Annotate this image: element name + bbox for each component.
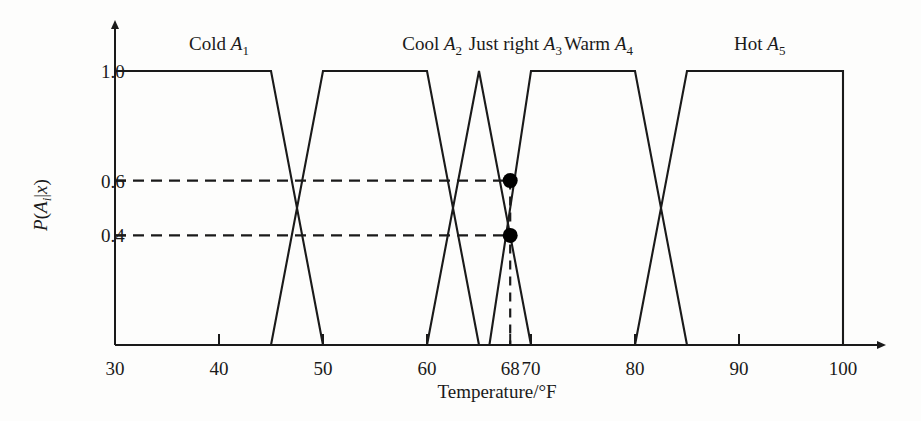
- series-symbol-subscript: 5: [779, 43, 786, 58]
- series-symbol-subscript: 1: [242, 43, 249, 58]
- x-tick-label: 68: [501, 359, 520, 378]
- membership-curve-cool: [271, 71, 479, 345]
- series-label-cold: Cold A1: [189, 34, 249, 57]
- series-label-text: Hot: [734, 33, 763, 54]
- membership-curve-warm: [489, 71, 687, 345]
- series-label-symbol: A2: [444, 33, 462, 54]
- series-label-symbol: A5: [767, 33, 785, 54]
- series-label-text: Cold: [189, 33, 226, 54]
- x-tick-label: 50: [314, 359, 333, 378]
- series-label-symbol: A3: [544, 33, 562, 54]
- series-symbol-subscript: 4: [627, 43, 634, 58]
- chart-plot-area: [0, 0, 921, 421]
- series-symbol-letter: A: [615, 33, 627, 54]
- series-symbol-letter: A: [544, 33, 556, 54]
- x-tick-label: 40: [210, 359, 229, 378]
- x-axis-title: Temperature/°F: [437, 382, 556, 401]
- series-label-cool: Cool A2: [402, 34, 462, 57]
- x-tick-label: 70: [522, 359, 541, 378]
- fuzzy-membership-chart: 30405060687080901001.00.60.4Cold A1Cool …: [0, 0, 921, 421]
- series-label-text: Just right: [469, 33, 539, 54]
- series-label-just-right: Just right A3: [469, 34, 562, 57]
- series-symbol-subscript: 2: [456, 43, 463, 58]
- series-label-warm: Warm A4: [564, 34, 633, 57]
- series-symbol-subscript: 3: [555, 43, 562, 58]
- x-tick-label: 100: [829, 359, 858, 378]
- membership-curve-cold: [115, 71, 323, 345]
- y-axis-title: P(Ai|x): [31, 179, 54, 231]
- series-label-hot: Hot A5: [734, 34, 785, 57]
- series-symbol-letter: A: [444, 33, 456, 54]
- x-tick-label: 80: [626, 359, 645, 378]
- membership-curve-hot: [635, 71, 843, 345]
- series-symbol-letter: A: [767, 33, 779, 54]
- data-point-marker: [503, 228, 518, 243]
- series-label-symbol: A4: [615, 33, 633, 54]
- membership-curves: [115, 71, 843, 345]
- membership-curve-just-right: [427, 71, 531, 345]
- axis-ticks: [115, 71, 843, 345]
- x-tick-label: 90: [730, 359, 749, 378]
- guide-lines: [115, 181, 510, 345]
- data-point-marker: [503, 173, 518, 188]
- series-label-text: Cool: [402, 33, 439, 54]
- x-tick-label: 30: [106, 359, 125, 378]
- series-label-symbol: A1: [231, 33, 249, 54]
- x-tick-label: 60: [418, 359, 437, 378]
- series-label-text: Warm: [564, 33, 610, 54]
- series-symbol-letter: A: [231, 33, 243, 54]
